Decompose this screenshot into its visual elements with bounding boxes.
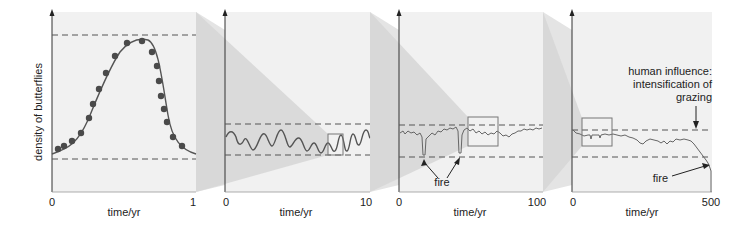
x-start-tick: 0 bbox=[49, 196, 55, 208]
x-end-tick: 10 bbox=[360, 196, 372, 208]
panel-1-bg bbox=[52, 12, 196, 192]
y-axis-label: density of butterflies bbox=[32, 63, 44, 161]
human-influence-label: human influence: bbox=[628, 65, 712, 77]
x-end-tick: 1 bbox=[190, 196, 196, 208]
x-start-tick: 0 bbox=[570, 196, 576, 208]
x-start-tick: 0 bbox=[396, 196, 402, 208]
x-axis-label: time/yr bbox=[454, 206, 487, 218]
fire-label: fire bbox=[653, 172, 668, 184]
x-axis-label: time/yr bbox=[280, 206, 313, 218]
x-end-tick: 500 bbox=[702, 196, 720, 208]
x-start-tick: 0 bbox=[223, 196, 229, 208]
x-axis-label: time/yr bbox=[626, 206, 659, 218]
human-influence-label: intensification of bbox=[633, 78, 713, 90]
fire-label: fire bbox=[434, 176, 449, 188]
zoom-timescale-figure: density of butterflies bbox=[0, 0, 741, 226]
human-influence-label: grazing bbox=[676, 91, 712, 103]
x-axis-label: time/yr bbox=[108, 206, 141, 218]
x-end-tick: 100 bbox=[528, 196, 546, 208]
